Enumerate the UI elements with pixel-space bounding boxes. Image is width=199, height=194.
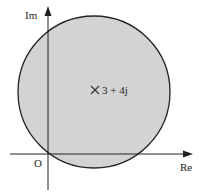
- imaginary-axis-label: Im: [25, 9, 38, 21]
- origin-label: O: [34, 157, 42, 169]
- real-axis-label: Re: [180, 161, 192, 173]
- imaginary-axis-arrow-icon: [45, 6, 52, 16]
- center-label: 3 + 4j: [102, 84, 128, 96]
- circle-region: [18, 16, 170, 168]
- real-axis-arrow-icon: [183, 151, 193, 158]
- argand-diagram: 3 + 4j Im Re O: [0, 0, 199, 194]
